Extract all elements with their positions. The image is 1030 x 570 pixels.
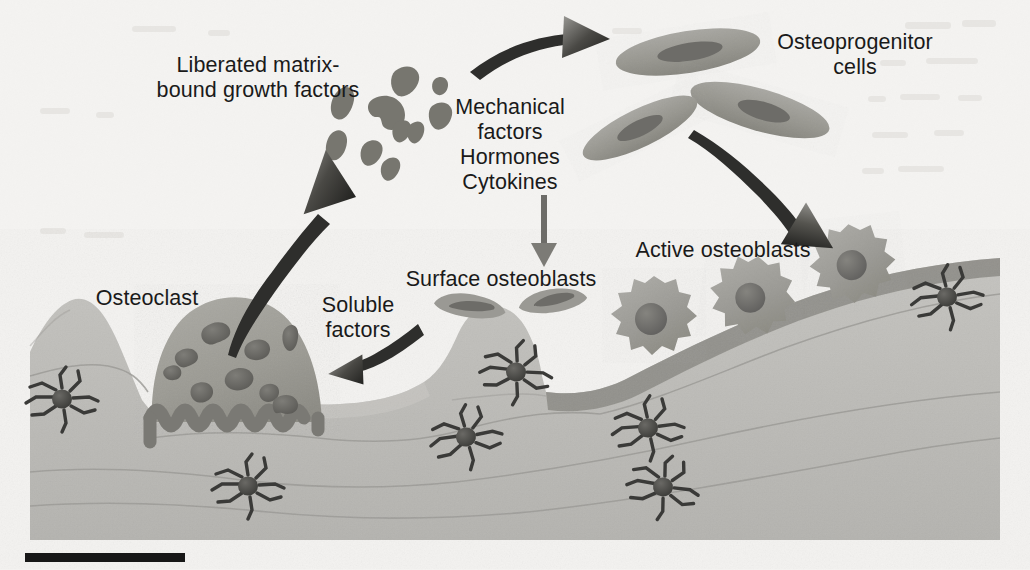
- bone-remodeling-figure: Liberated matrix- bound growth factors M…: [0, 0, 1030, 570]
- label-active-osteoblasts: Active osteoblasts: [635, 238, 810, 263]
- label-surface-osteoblasts: Surface osteoblasts: [406, 267, 597, 292]
- label-liberated-growth-factors: Liberated matrix- bound growth factors: [157, 53, 360, 103]
- label-mechanical-factors: Mechanical factors Hormones Cytokines: [455, 95, 565, 195]
- label-soluble-factors: Soluble factors: [322, 293, 394, 343]
- label-osteoprogenitor-cells: Osteoprogenitor cells: [777, 30, 933, 80]
- label-osteoclast: Osteoclast: [96, 286, 199, 311]
- scale-bar: [25, 553, 185, 562]
